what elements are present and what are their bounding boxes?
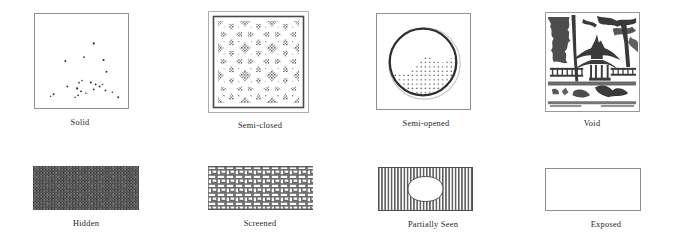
cell-hidden: Hidden xyxy=(0,166,172,229)
cell-caption: Partially Seen xyxy=(347,220,519,230)
void-garden-scene-panel xyxy=(545,12,640,112)
solid-wall-sparse-dots-panel xyxy=(34,13,129,109)
cell-caption: Exposed xyxy=(520,220,673,230)
cell-caption: Screened xyxy=(174,219,346,229)
semi-opened-moon-gate-panel xyxy=(376,13,471,110)
partially-seen-striped-band-with-opening xyxy=(378,167,473,211)
cell-solid: Solid xyxy=(0,13,160,128)
permeability-matrix-figure: Solid xyxy=(0,0,673,243)
hidden-solid-dark-band xyxy=(33,166,139,210)
cell-caption: Semi-opened xyxy=(346,119,506,129)
cell-partially-seen: Partially Seen xyxy=(347,167,519,230)
cell-caption: Void xyxy=(512,119,672,129)
cell-exposed: Exposed xyxy=(520,168,673,230)
exposed-empty-band xyxy=(545,168,641,211)
cell-semi-opened: Semi-opened xyxy=(346,13,506,129)
cell-caption: Semi-closed xyxy=(180,121,340,131)
semi-closed-lattice-window-panel xyxy=(208,11,309,113)
cell-screened: Screened xyxy=(174,166,346,229)
screened-basket-weave-band xyxy=(208,166,313,210)
cell-void: Void xyxy=(512,12,672,129)
cell-semi-closed: Semi-closed xyxy=(180,11,340,131)
cell-caption: Solid xyxy=(0,118,160,128)
cell-caption: Hidden xyxy=(0,219,172,229)
